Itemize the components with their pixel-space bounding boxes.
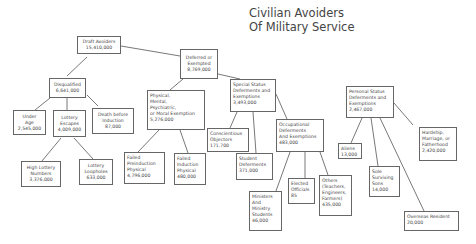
node-value: 171,700 bbox=[210, 143, 246, 149]
node-lottery-loopholes: Lottery Loopholes 633,000 bbox=[79, 159, 113, 185]
node-label: Deferments bbox=[239, 162, 270, 168]
node-draft-avoiders: Draft Avoiders 15,410,000 bbox=[77, 36, 121, 54]
node-value: 87,000 bbox=[95, 124, 131, 130]
node-value: 4,009,000 bbox=[56, 127, 83, 133]
node-value: 2,420,000 bbox=[422, 148, 454, 154]
node-value: 4,796,000 bbox=[127, 173, 162, 179]
node-value: 2,545,000 bbox=[16, 126, 43, 132]
node-aliens: Aliens 13,000 bbox=[338, 143, 362, 159]
node-disqualified: Disqualified 6,641,000 bbox=[49, 78, 86, 98]
node-under-age: Under Age 2,545,000 bbox=[13, 110, 46, 135]
node-value: 5,276,000 bbox=[150, 117, 202, 123]
node-value: 2,467,000 bbox=[349, 107, 391, 113]
node-personal-status: Personal Status Deferments and Exemption… bbox=[346, 86, 394, 118]
node-value: 20,000 bbox=[407, 220, 456, 226]
node-label: Personal Status bbox=[349, 89, 391, 95]
node-conscientious-objectors: Conscientious Objectors 171,700 bbox=[207, 128, 249, 152]
node-value: 13,000 bbox=[341, 152, 359, 158]
node-label: (Teachers, bbox=[322, 184, 349, 190]
node-label: Deferments and bbox=[349, 95, 391, 101]
node-value: 15,410,000 bbox=[80, 45, 118, 51]
node-high-lottery-numbers: High Lottery Numbers 3,376,000 bbox=[21, 161, 61, 187]
node-label: And Exemptions bbox=[279, 134, 321, 140]
node-elected-officials: Elected Officials 85 bbox=[288, 178, 315, 204]
node-value: 85 bbox=[291, 193, 312, 199]
node-value: 483,000 bbox=[279, 140, 321, 146]
node-hardship-marriage-fatherhood: Hardship, Marriage, or Fatherhood 2,420,… bbox=[419, 127, 457, 161]
node-special-status: Special Status Deferments and Exemptions… bbox=[230, 79, 276, 112]
node-failed-preinduction-physical: Failed Preinduction Physical 4,796,000 bbox=[124, 152, 165, 184]
node-lottery-escapes: Lottery Escapes 4,009,000 bbox=[53, 110, 86, 137]
node-value: 3,376,000 bbox=[24, 177, 58, 183]
node-student-deferments: Student Deferments 371,000 bbox=[236, 153, 273, 180]
node-value: 14,000 bbox=[372, 187, 397, 193]
node-failed-induction-physical: Failed Induction Physical 480,000 bbox=[174, 153, 206, 185]
node-value: 8,769,000 bbox=[183, 67, 215, 73]
node-label: Conscientious bbox=[210, 131, 246, 137]
node-ministers: Ministers And Ministry Students 46,000 bbox=[249, 191, 282, 231]
node-value: 371,000 bbox=[239, 168, 270, 174]
node-label: Engineers, bbox=[322, 190, 349, 196]
node-label: Officials bbox=[291, 187, 312, 193]
node-value: 46,000 bbox=[252, 218, 279, 224]
node-value: 480,000 bbox=[177, 174, 203, 180]
node-value: 435,000 bbox=[322, 202, 349, 208]
node-deferred-or-exempted: Deferred or Exempted 8,769,000 bbox=[180, 49, 218, 79]
node-value: 633,000 bbox=[82, 175, 110, 181]
node-death-before-induction: Death before Induction 87,000 bbox=[92, 108, 134, 134]
node-physical-mental-exemption: Physical, Mental, Psychiatric, or Moral … bbox=[147, 90, 205, 130]
node-label: Surviving bbox=[372, 175, 397, 181]
node-others: Others (Teachers, Engineers, Farmers) 43… bbox=[319, 175, 352, 216]
node-label: Deferments and bbox=[233, 88, 273, 94]
node-label: Marriage, or bbox=[422, 136, 454, 142]
node-overseas-resident: Overseas Resident 20,000 bbox=[404, 211, 459, 231]
node-label: Overseas Resident bbox=[407, 214, 456, 220]
node-occupational: Occupational Deferments And Exemptions 4… bbox=[276, 119, 324, 152]
node-label: or Moral Exemption bbox=[150, 111, 202, 117]
node-value: 6,641,000 bbox=[52, 88, 83, 94]
node-sole-surviving-sons: Sole Surviving Sons 14,000 bbox=[369, 166, 400, 197]
node-value: 3,493,000 bbox=[233, 100, 273, 106]
